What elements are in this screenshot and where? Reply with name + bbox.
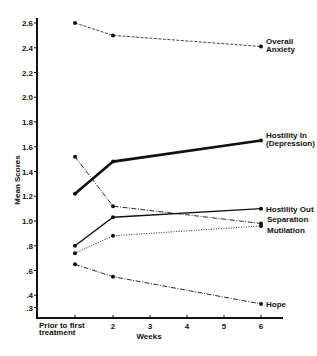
series-label-hope: Hope [266, 300, 287, 309]
series-label-hostility-out: Hostility Out [266, 205, 314, 214]
data-point-marker [73, 155, 77, 159]
y-tick-label: 1.2 [22, 192, 34, 201]
data-point-marker [259, 224, 263, 228]
data-point-marker [73, 262, 77, 266]
data-point-marker [259, 207, 263, 211]
data-point-marker [73, 244, 77, 248]
series-lines [73, 21, 263, 306]
line-chart: 2.62.42.22.01.81.61.41.21.0.8.6.4.3Prior… [0, 0, 317, 356]
data-point-marker [111, 160, 115, 164]
x-tick-label: 5 [222, 322, 227, 331]
data-point-marker [111, 234, 115, 238]
series-line-hope [75, 264, 261, 304]
x-tick-label: 4 [185, 322, 190, 331]
series-label-hostility-in-depression: (Depression) [266, 139, 315, 148]
data-point-marker [73, 21, 77, 25]
y-tick-label: 2.4 [22, 44, 34, 53]
y-tick-label: 2.0 [22, 93, 34, 102]
data-point-marker [111, 215, 115, 219]
data-point-marker [73, 251, 77, 255]
y-axis-title: Mean Scores [13, 155, 22, 205]
data-point-marker [73, 192, 77, 196]
series-line-mutilation [75, 226, 261, 253]
y-tick-label: 1.8 [22, 118, 34, 127]
y-tick-label: .3 [26, 304, 33, 313]
y-tick-label: 2.2 [22, 69, 34, 78]
series-label-separation: Separation [267, 215, 308, 224]
x-tick-label: 6 [259, 322, 264, 331]
series-line-overall-anxiety [75, 23, 261, 47]
x-tick-label: treatment [39, 328, 76, 337]
y-tick-label: .4 [26, 291, 33, 300]
data-point-marker [259, 45, 263, 49]
x-tick-label: 3 [148, 322, 153, 331]
y-tick-label: 1.4 [22, 168, 34, 177]
data-point-marker [111, 204, 115, 208]
y-tick-label: 2.6 [22, 19, 34, 28]
series-line-hostility-in-depression [75, 141, 261, 194]
y-tick-label: .8 [26, 242, 33, 251]
y-tick-label: 1.6 [22, 143, 34, 152]
x-tick-label: 2 [111, 322, 116, 331]
series-label-mutilation: Mutilation [267, 226, 305, 235]
axes: 2.62.42.22.01.81.61.41.21.0.8.6.4.3Prior… [22, 18, 283, 337]
series-label-overall-anxiety: Anxiety [266, 45, 295, 54]
data-point-marker [259, 139, 263, 143]
y-tick-label: 1.0 [22, 217, 34, 226]
data-point-marker [111, 33, 115, 37]
data-point-marker [259, 302, 263, 306]
y-tick-label: .6 [26, 267, 33, 276]
series-labels: OverallAnxietyHostility In(Depression)Ho… [266, 37, 315, 309]
x-axis-title: Weeks [136, 332, 162, 341]
data-point-marker [111, 275, 115, 279]
